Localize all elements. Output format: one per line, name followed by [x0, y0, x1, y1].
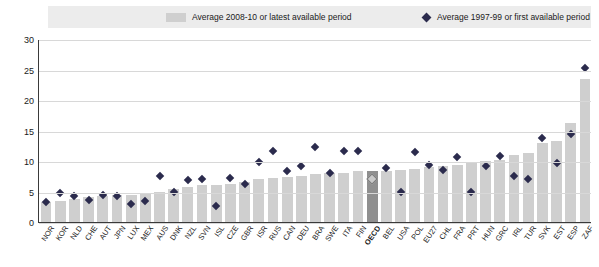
- x-tick-label: SWE: [323, 224, 340, 243]
- x-tick-label: GBR: [238, 224, 255, 242]
- x-tick-label: NOR: [40, 224, 57, 243]
- data-point-marker: [155, 171, 163, 179]
- data-point-marker: [538, 134, 546, 142]
- chart-legend: Average 2008-10 or latest available peri…: [48, 6, 591, 28]
- bar: [296, 176, 307, 222]
- bar: [381, 171, 392, 222]
- x-tick-label: ESP: [565, 224, 581, 241]
- x-tick-label: DEU: [295, 224, 311, 242]
- x-tick-label: BEL: [381, 224, 397, 241]
- x-tick-label: SVN: [196, 224, 212, 242]
- data-point-marker: [226, 174, 234, 182]
- bar: [438, 166, 449, 222]
- y-tick-label: 25: [0, 66, 34, 76]
- data-point-marker: [496, 151, 504, 159]
- y-tick-label: 0: [0, 218, 34, 228]
- y-tick-label: 30: [0, 35, 34, 45]
- x-tick-label: FRA: [452, 224, 468, 241]
- x-tick-label: CZE: [225, 224, 241, 241]
- x-tick-label: NZL: [183, 224, 199, 241]
- legend-marker-label: Average 1997-99 or first available perio…: [437, 12, 590, 22]
- x-tick-label: HUN: [479, 224, 496, 242]
- data-point-marker: [354, 147, 362, 155]
- bar: [424, 167, 435, 222]
- bar: [126, 195, 137, 222]
- x-tick-label: NLD: [69, 224, 85, 241]
- bar: [523, 153, 534, 222]
- x-tick-label: BRA: [310, 224, 326, 242]
- data-point-marker: [269, 146, 277, 154]
- bar: [268, 178, 279, 222]
- x-tick-label: RUS: [267, 224, 283, 242]
- legend-entry-marker: Average 1997-99 or first available perio…: [423, 12, 590, 22]
- bar: [197, 185, 208, 222]
- data-point-marker: [340, 147, 348, 155]
- bar: [452, 165, 463, 222]
- x-tick-label: PRT: [466, 224, 482, 241]
- x-tick-label: MEX: [139, 224, 156, 242]
- gridline: [39, 101, 591, 102]
- legend-bar-swatch: [166, 13, 186, 22]
- bar: [494, 160, 505, 222]
- legend-entry-bar: Average 2008-10 or latest available peri…: [166, 12, 352, 22]
- x-tick-label: JPN: [112, 224, 128, 241]
- data-point-marker: [453, 153, 461, 161]
- bar: [225, 184, 236, 222]
- y-tick-label: 15: [0, 127, 34, 137]
- bar: [97, 196, 108, 222]
- data-point-marker: [311, 143, 319, 151]
- bar: [551, 141, 562, 222]
- x-axis-tick-labels: NORKORNLDCHEAUTJPNLUXMEXAUSDNKNZLSVNISLC…: [38, 224, 591, 266]
- x-tick-label: SVK: [537, 224, 553, 241]
- x-tick-label: LUX: [126, 224, 142, 241]
- x-tick-label: USA: [395, 224, 411, 242]
- x-tick-label: ZAF: [580, 224, 596, 241]
- y-tick-label: 10: [0, 157, 34, 167]
- data-point-marker: [283, 167, 291, 175]
- x-tick-label: ITA: [340, 224, 354, 238]
- bar: [409, 169, 420, 222]
- bar: [537, 143, 548, 222]
- bar: [324, 173, 335, 222]
- x-tick-label: DNK: [168, 224, 184, 242]
- bar: [69, 199, 80, 222]
- x-tick-label: CHL: [437, 224, 453, 241]
- bar: [55, 201, 66, 222]
- x-tick-label: KOR: [54, 224, 71, 242]
- x-tick-label: TUR: [522, 224, 538, 242]
- bar: [282, 177, 293, 222]
- y-tick-label: 5: [0, 188, 34, 198]
- x-tick-label: EU27: [421, 224, 439, 245]
- bar: [154, 192, 165, 223]
- gridline: [39, 162, 591, 163]
- y-axis-tick-labels: 051015202530: [0, 40, 34, 223]
- bar: [509, 155, 520, 222]
- legend-bar-label: Average 2008-10 or latest available peri…: [192, 12, 352, 22]
- data-point-marker: [184, 176, 192, 184]
- data-point-marker: [410, 148, 418, 156]
- bar: [338, 173, 349, 222]
- x-tick-label: AUT: [97, 224, 113, 241]
- data-point-marker: [198, 175, 206, 183]
- x-tick-label: CAN: [281, 224, 297, 242]
- unemployment-rate-chart: Average 2008-10 or latest available peri…: [0, 0, 599, 267]
- x-tick-label: EST: [551, 224, 567, 241]
- diamond-marker-icon: [422, 12, 432, 22]
- x-tick-label: AUS: [154, 224, 170, 242]
- bar: [253, 179, 264, 222]
- y-tick-label: 20: [0, 96, 34, 106]
- x-tick-label: GRC: [493, 224, 510, 243]
- gridline: [39, 132, 591, 133]
- bar: [353, 171, 364, 222]
- bar: [310, 174, 321, 222]
- gridline: [39, 193, 591, 194]
- x-tick-label: CHE: [83, 224, 99, 242]
- plot-area: [38, 40, 591, 223]
- gridline: [39, 40, 591, 41]
- gridline: [39, 71, 591, 72]
